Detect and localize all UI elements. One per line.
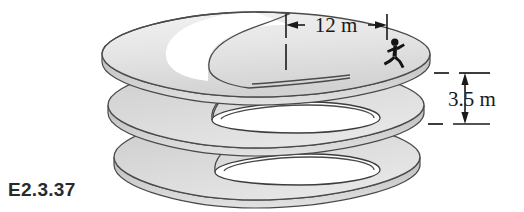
figure-number-label: E2.3.37 — [8, 179, 76, 200]
dimension-3p5m: 3.5 m — [428, 73, 496, 124]
figure-container: 12 m 3.5 m E2.3.37 — [0, 0, 524, 212]
dimension-3p5m-label: 3.5 m — [448, 87, 496, 111]
dimension-3p5m-down-arrowhead — [461, 112, 468, 124]
helix-ramp-diagram: 12 m 3.5 m E2.3.37 — [0, 0, 524, 212]
dimension-12m-label: 12 m — [315, 13, 358, 37]
dimension-3p5m-up-arrowhead — [461, 73, 468, 85]
